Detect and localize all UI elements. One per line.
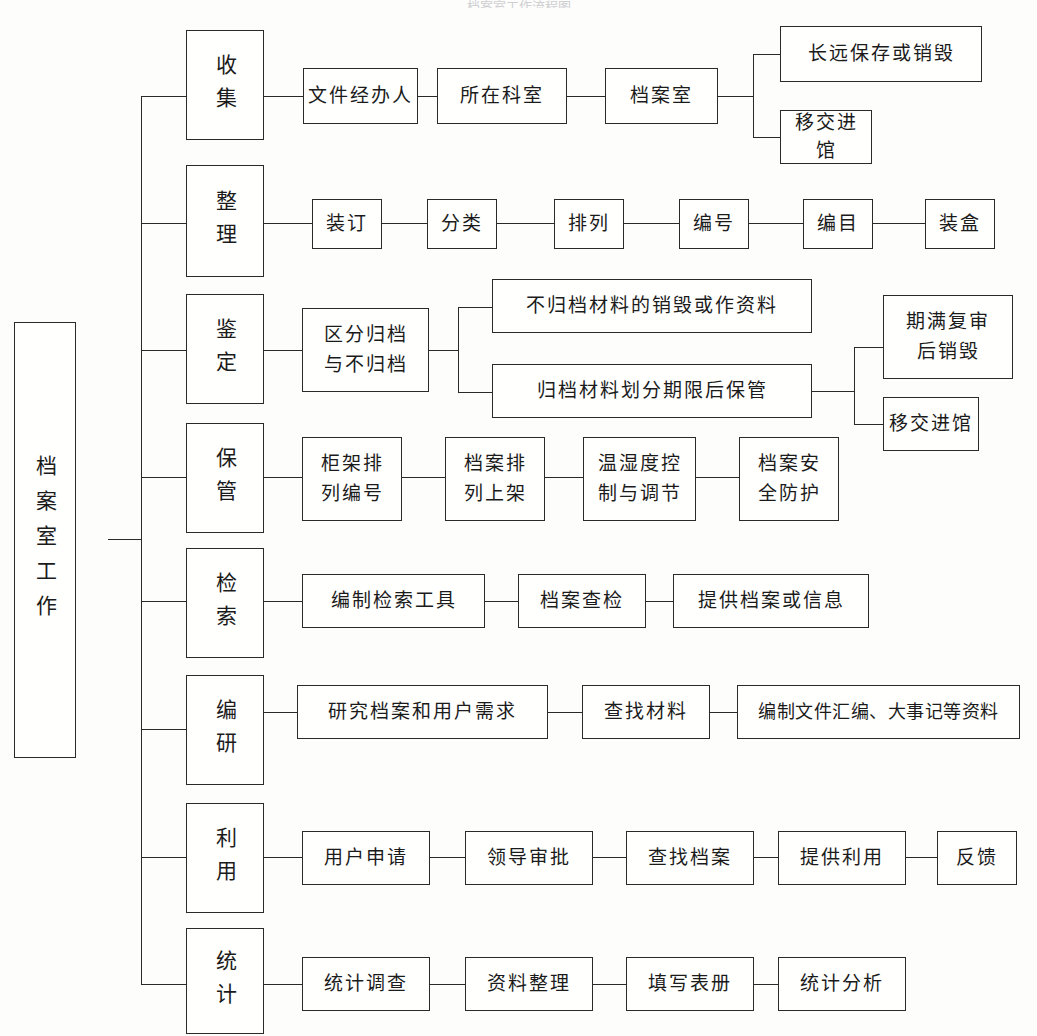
node-label: 统计调查 (324, 970, 408, 998)
link-tigongly-to-fankui (906, 857, 937, 858)
node-wenjian-jingbanren[interactable]: 文件经办人 (303, 68, 418, 124)
node-label: 查找材料 (604, 698, 688, 726)
link-zhengli-to-zhuangding (264, 223, 312, 224)
node-label: 编制文件汇编、大事记等资料 (758, 699, 999, 725)
node-pailie[interactable]: 排列 (554, 199, 624, 249)
node-fankui[interactable]: 反馈 (937, 831, 1017, 885)
node-bianzhi-wenjian-huibian[interactable]: 编制文件汇编、大事记等资料 (737, 685, 1020, 739)
node-guidang-cailiao[interactable]: 归档材料划分期限后保管 (492, 364, 812, 418)
node-bianzhi-jiansuo-gongju[interactable]: 编制检索工具 (302, 574, 485, 628)
node-label-line2: 后销毁 (917, 337, 980, 367)
node-label-line1: 柜架排 (321, 449, 384, 479)
node-label: 填写表册 (648, 970, 732, 998)
trunk-stub-1 (141, 96, 187, 97)
node-label-line2: 列上架 (464, 479, 527, 509)
node-yonghu-shenqing[interactable]: 用户申请 (302, 831, 430, 885)
node-guijia-pailie-bianhao[interactable]: 柜架排 列编号 (302, 437, 402, 521)
node-dangan-anquan-fanghu[interactable]: 档案安 全防护 (739, 437, 839, 521)
node-label: 反馈 (956, 844, 998, 872)
root-node-archive-office-work[interactable]: 档案室工作 (14, 322, 76, 758)
node-label: 装盒 (939, 210, 981, 238)
fork1-stem (718, 96, 754, 97)
node-lingdao-shenpi[interactable]: 领导审批 (465, 831, 593, 885)
node-tigong-liyong[interactable]: 提供利用 (778, 831, 906, 885)
node-label: 文件经办人 (308, 82, 413, 110)
trunk-stub-4 (141, 477, 187, 478)
node-tongji-diaocha[interactable]: 统计调查 (302, 957, 430, 1011)
node-bianmu[interactable]: 编目 (803, 199, 873, 249)
trunk-vertical-line (141, 96, 142, 985)
trunk-stub-5 (141, 601, 187, 602)
node-changyuan-baocun-huo-xiaohui[interactable]: 长远保存或销毁 (780, 26, 982, 82)
node-label: 移交进馆 (785, 109, 867, 164)
stage-box-baoguan[interactable]: 保管 (186, 423, 264, 533)
node-label: 排列 (568, 210, 610, 238)
node-fenlei[interactable]: 分类 (427, 199, 497, 249)
node-wenshidu-kongzhi[interactable]: 温湿度控 制与调节 (583, 437, 696, 521)
node-tongji-fenxi[interactable]: 统计分析 (778, 957, 906, 1011)
node-label: 归档材料划分期限后保管 (537, 377, 768, 405)
node-label: 编号 (693, 210, 735, 238)
node-zhuanghe[interactable]: 装盒 (925, 199, 995, 249)
node-ziliao-zhengli[interactable]: 资料整理 (465, 957, 593, 1011)
link-baoguan-to-guijia (264, 477, 302, 478)
node-bianhao[interactable]: 编号 (679, 199, 749, 249)
stage-label-bianyan: 编研 (209, 699, 242, 765)
node-label: 统计分析 (800, 970, 884, 998)
node-label: 编目 (817, 210, 859, 238)
node-yanjiu-dangan-xuqiu[interactable]: 研究档案和用户需求 (297, 685, 548, 739)
node-qufen-guidang[interactable]: 区分归档 与不归档 (302, 308, 429, 392)
node-zhuangding[interactable]: 装订 (312, 199, 382, 249)
node-tigong-dangan-xinxi[interactable]: 提供档案或信息 (673, 574, 869, 628)
stage-label-jiansuo: 检索 (209, 572, 242, 638)
link-yonghu-to-lingdao (430, 857, 465, 858)
node-chazhao-dangan[interactable]: 查找档案 (626, 831, 754, 885)
node-danganshi[interactable]: 档案室 (605, 68, 718, 124)
node-dangan-chajian[interactable]: 档案查检 (518, 574, 646, 628)
stage-box-liyong[interactable]: 利用 (186, 803, 264, 913)
fork3-lower-arm (854, 424, 884, 425)
node-label: 研究档案和用户需求 (328, 698, 517, 726)
node-label: 档案室 (630, 82, 693, 110)
trunk-stub-7 (141, 857, 187, 858)
node-label: 分类 (441, 210, 483, 238)
fork3-vertical (854, 347, 855, 425)
fork2-upper-arm (458, 307, 494, 308)
node-label: 装订 (326, 210, 368, 238)
node-tianxie-biaoce[interactable]: 填写表册 (626, 957, 754, 1011)
node-yijiao-jinguan-1[interactable]: 移交进馆 (780, 110, 872, 164)
trunk-stub-2 (141, 223, 187, 224)
stage-box-jiansuo[interactable]: 检索 (186, 548, 264, 658)
node-chazhao-cailiao[interactable]: 查找材料 (582, 685, 710, 739)
node-buguidang-cailiao[interactable]: 不归档材料的销毁或作资料 (492, 279, 812, 333)
node-suozai-keshi[interactable]: 所在科室 (437, 68, 567, 124)
node-label: 长远保存或销毁 (808, 40, 955, 68)
link-tongji-to-diaocha (264, 984, 302, 985)
trunk-stub-8 (141, 984, 187, 985)
fork3-stem (812, 391, 855, 392)
link-yanjiu-to-chazhao (548, 712, 582, 713)
fork2-lower-arm (458, 392, 494, 393)
stage-box-zhengli[interactable]: 整理 (186, 165, 264, 277)
fork1-vertical (753, 54, 754, 138)
link-bianmu-to-zhuanghe (873, 223, 925, 224)
faint-page-title: 档案室工作流程图 (0, 0, 1037, 8)
link-pailie-to-bianhao (624, 223, 679, 224)
fork2-stem (429, 350, 459, 351)
link-shouji-to-wenjian (264, 96, 303, 97)
stage-box-tongji[interactable]: 统计 (186, 928, 264, 1034)
link-jiansuo-to-bianzhi (264, 601, 302, 602)
node-label-line2: 与不归档 (324, 350, 408, 380)
stage-box-shouji[interactable]: 收集 (186, 30, 264, 140)
root-to-trunk-line (108, 539, 142, 540)
stage-box-jianding[interactable]: 鉴定 (186, 294, 264, 404)
node-label: 档案查检 (540, 587, 624, 615)
node-label-line1: 区分归档 (324, 320, 408, 350)
link-tianxie-to-tjfenxi (754, 984, 778, 985)
node-qiman-fushen-hou-xiaohui[interactable]: 期满复审 后销毁 (883, 295, 1013, 379)
node-yijiao-jinguan-2[interactable]: 移交进馆 (883, 397, 979, 451)
stage-box-bianyan[interactable]: 编研 (186, 675, 264, 785)
link-fenlei-to-pailie (497, 223, 554, 224)
node-dangan-pailie-shangjia[interactable]: 档案排 列上架 (445, 437, 545, 521)
node-label-line2: 列编号 (321, 479, 384, 509)
